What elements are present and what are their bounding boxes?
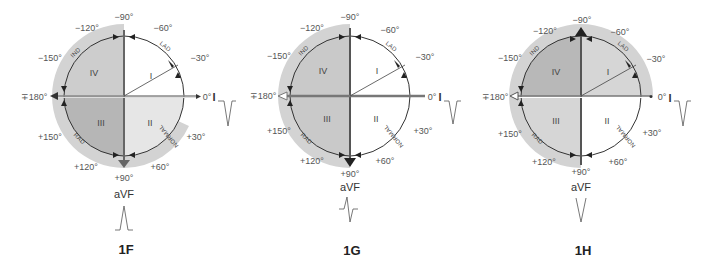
lead-I-waveform [444, 101, 461, 124]
angle-plus30: +30° [414, 126, 433, 136]
quadrant-I-fill [581, 36, 641, 96]
figure-1F: IV I III II IND LAD NORMAL RAD −90° −60°… [0, 0, 236, 277]
quadrant-IV-fill [64, 36, 124, 96]
angle-0: 0° [428, 92, 437, 102]
quadrant-IV-fill [521, 36, 581, 96]
angle-minus90: −90° [115, 12, 134, 22]
hexaxial-diagram-1H: IV I III II IND LAD NORMAL RAD −90° −60°… [470, 0, 706, 277]
angle-plus90: +90° [341, 169, 360, 179]
lead-I-label: I [438, 91, 441, 103]
aVF-label: aVF [340, 181, 360, 193]
angle-plus60: +60° [609, 157, 628, 167]
lead-I-arrowhead [196, 94, 201, 99]
angle-minus120: −120° [75, 23, 99, 33]
angle-plus150: +150° [498, 129, 522, 139]
angle-minus30: −30° [647, 54, 666, 64]
angle-minus60: −60° [611, 27, 630, 37]
angle-0: 0° [203, 92, 212, 102]
lead-I-label: I [212, 91, 215, 103]
angle-minus150: −150° [498, 53, 522, 63]
angle-plus120: +120° [300, 156, 324, 166]
quadrant-III-fill [64, 96, 124, 156]
angle-plus150: +150° [38, 132, 62, 142]
angle-minus30: −30° [191, 53, 210, 63]
angle-plus60: +60° [376, 156, 395, 166]
angle-minus150: −150° [267, 51, 291, 61]
quadrant-II-label: II [147, 118, 152, 128]
hexaxial-diagram-1F: IV I III II IND LAD NORMAL RAD −90° −60°… [0, 0, 236, 277]
figure-label: 1F [118, 242, 133, 257]
quadrant-II-label: II [373, 114, 378, 124]
quadrant-IV-label: IV [90, 68, 99, 78]
angle-180: ∓180° [482, 92, 509, 102]
quadrant-I-label: I [150, 71, 153, 81]
quadrant-III-label: III [323, 114, 331, 124]
quadrant-III-fill [521, 96, 581, 156]
angle-minus90: −90° [573, 15, 592, 25]
angle-plus30: +30° [643, 128, 662, 138]
quadrant-I-label: I [376, 66, 379, 76]
lad-arc-label: LAD [385, 40, 399, 53]
aVF-waveform [115, 206, 133, 230]
angle-180: ∓180° [250, 91, 277, 101]
hexaxial-diagram-1G: IV I III II IND LAD NORMAL RAD −90° −60°… [235, 0, 471, 277]
aVF-waveform [339, 197, 358, 222]
angle-plus90: +90° [115, 173, 134, 183]
quadrant-III-label: III [97, 118, 105, 128]
angle-plus120: +120° [532, 157, 556, 167]
angle-plus60: +60° [151, 162, 170, 172]
quadrant-I-fill [124, 36, 184, 96]
figure-label: 1G [343, 243, 360, 258]
angle-minus120: −120° [300, 23, 324, 33]
aVF-label: aVF [114, 188, 134, 200]
quadrant-I-label: I [607, 67, 610, 77]
angle-plus90: +90° [572, 167, 591, 177]
angle-plus120: +120° [74, 162, 98, 172]
angle-minus90: −90° [341, 12, 360, 22]
angle-180: ∓180° [21, 92, 48, 102]
aVF-waveform [576, 198, 586, 222]
angle-minus150: −150° [38, 53, 62, 63]
lead-I-waveform [674, 101, 691, 126]
angle-minus60: −60° [381, 25, 400, 35]
angle-plus150: +150° [267, 126, 291, 136]
figure-label: 1H [575, 243, 592, 258]
quadrant-IV-label: IV [319, 66, 328, 76]
angle-minus60: −60° [154, 23, 173, 33]
angle-plus30: +30° [187, 132, 206, 142]
quadrant-II-label: II [604, 116, 609, 126]
angle-minus30: −30° [416, 52, 435, 62]
quadrant-IV-label: IV [552, 67, 561, 77]
figure-1H: IV I III II IND LAD NORMAL RAD −90° −60°… [470, 0, 706, 277]
aVF-label: aVF [571, 181, 591, 193]
lead-I-waveform [218, 101, 236, 126]
angle-0: 0° [658, 92, 667, 102]
quadrant-III-label: III [552, 116, 560, 126]
angle-minus120: −120° [533, 26, 557, 36]
figure-1G: IV I III II IND LAD NORMAL RAD −90° −60°… [235, 0, 471, 277]
lead-I-label: I [668, 92, 671, 104]
